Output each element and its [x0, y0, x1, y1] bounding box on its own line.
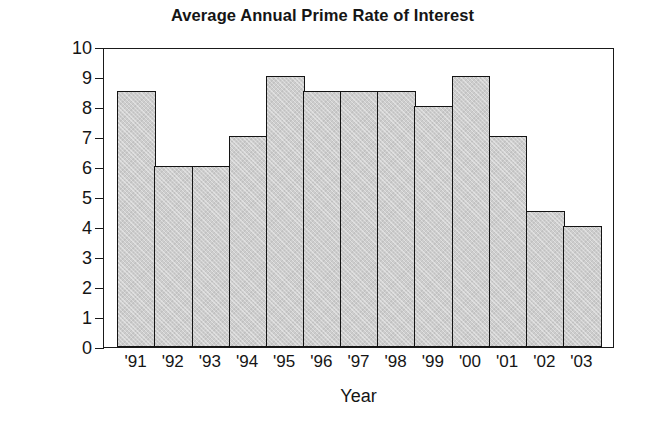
y-axis-tick-label: 7	[52, 129, 92, 147]
y-axis-tick-label: 8	[52, 99, 92, 117]
x-axis-tick-label: '03	[570, 352, 592, 372]
y-axis-tick-label: 2	[52, 279, 92, 297]
y-axis-tick	[95, 108, 104, 109]
x-axis-tick-label: '97	[347, 352, 369, 372]
y-axis-tick-label: 4	[52, 219, 92, 237]
bar	[452, 76, 491, 347]
bar	[377, 91, 416, 347]
bars-layer	[104, 49, 613, 347]
bar	[414, 106, 453, 347]
y-axis-tick	[95, 228, 104, 229]
bar	[266, 76, 305, 347]
bar	[192, 166, 231, 347]
bar	[340, 91, 379, 347]
x-axis-tick-label: '01	[496, 352, 518, 372]
x-axis-tick-label: '02	[533, 352, 555, 372]
bar	[563, 226, 602, 347]
y-axis-tick-label: 5	[52, 189, 92, 207]
y-axis-tick	[95, 258, 104, 259]
y-axis-tick-label: 0	[52, 339, 92, 357]
x-axis-tick-label: '94	[236, 352, 258, 372]
y-axis-tick	[95, 138, 104, 139]
x-axis-tick-label: '91	[124, 352, 146, 372]
y-axis-tick-label: 9	[52, 69, 92, 87]
x-axis-label: Year	[103, 386, 614, 407]
y-axis-tick	[95, 78, 104, 79]
bar	[117, 91, 156, 347]
y-axis-tick	[95, 288, 104, 289]
y-axis-tick-label: 6	[52, 159, 92, 177]
x-axis-tick-label: '00	[459, 352, 481, 372]
y-axis-tick	[95, 168, 104, 169]
bar	[303, 91, 342, 347]
plot-area	[103, 48, 614, 348]
x-axis-tick-label: '93	[199, 352, 221, 372]
y-axis-tick	[95, 348, 104, 349]
x-axis-tick-label: '98	[385, 352, 407, 372]
bar	[154, 166, 193, 347]
y-axis-tick	[95, 198, 104, 199]
x-axis-tick-label: '96	[310, 352, 332, 372]
x-axis-tick-label: '95	[273, 352, 295, 372]
bar	[489, 136, 528, 347]
y-axis-tick	[95, 318, 104, 319]
y-axis-tick-label: 10	[52, 39, 92, 57]
x-axis-tick-label: '92	[162, 352, 184, 372]
chart-figure: Average Annual Prime Rate of Interest Pr…	[0, 0, 645, 423]
bar	[526, 211, 565, 347]
y-axis-tick	[95, 48, 104, 49]
y-axis-tick-label: 1	[52, 309, 92, 327]
x-axis-tick-label: '99	[422, 352, 444, 372]
chart-title: Average Annual Prime Rate of Interest	[0, 6, 645, 25]
bar	[229, 136, 268, 347]
y-axis-tick-label: 3	[52, 249, 92, 267]
